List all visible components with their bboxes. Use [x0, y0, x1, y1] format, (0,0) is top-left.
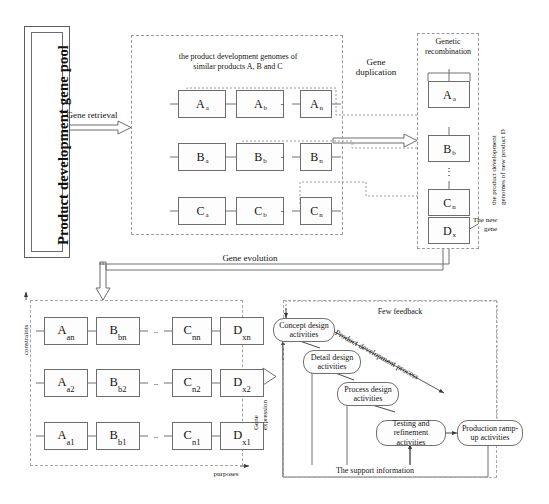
matrix-cell-d-x2: Dx2: [220, 369, 264, 397]
matrix-cell-b-b1-text: Bb1: [110, 429, 127, 444]
genome-cell-c-n-text: Cn: [310, 205, 322, 217]
gene-duplication-arrow: [333, 134, 417, 147]
gene-duplication-label-line2: duplication: [338, 67, 414, 78]
recombination-cell-a: Aa: [428, 81, 470, 108]
matrix-cell-b-b1: Bb1: [96, 422, 140, 450]
genome-cell-a-a: Aa: [178, 90, 226, 118]
gene-pool-inner-frame: Product development gene pool: [31, 32, 63, 252]
matrix-row-n-ellipsis: --: [146, 328, 166, 336]
new-gene-label-line1: The new: [473, 216, 525, 224]
genome-cell-c-a-text: Ca: [196, 205, 207, 217]
matrix-cell-d-xn-text: Dxn: [233, 324, 251, 339]
matrix-cell-d-xn: Dxn: [220, 317, 264, 345]
recombination-cell-b: Bb: [428, 135, 470, 162]
matrix-cell-c-n1-text: Cn1: [184, 429, 201, 444]
genome-cell-a-a-text: Aa: [196, 98, 208, 110]
activity-concept-design-line1: Concept design: [279, 321, 329, 330]
new-gene-label-line2: gene: [484, 225, 528, 233]
matrix-row-1-ellipsis: --: [146, 433, 166, 441]
similar-genomes-caption-line1: the product development genomes of: [140, 52, 336, 62]
recombination-side-caption-line1: the product development: [490, 135, 498, 205]
activity-concept-design-line2: activities: [290, 330, 319, 339]
recombination-cell-b-text: Bb: [443, 143, 455, 155]
activity-detail-design-line2: activities: [318, 362, 347, 371]
matrix-cell-c-n2-text: Cn2: [184, 376, 201, 391]
similar-genomes-caption-line2: similar products A, B and C: [140, 62, 336, 72]
matrix-cell-c-n1: Cn1: [172, 422, 212, 450]
matrix-cell-b-b2: Bb2: [96, 369, 140, 397]
genome-cell-b-a-text: Ba: [196, 151, 207, 163]
activity-concept-design[interactable]: Concept design activities: [273, 318, 335, 342]
recombination-cell-c-text: Cn: [443, 197, 455, 209]
genome-row-b-ellipsis: -: [270, 153, 294, 163]
genome-cell-c-n: Cn: [300, 197, 332, 225]
matrix-cell-b-bn: Bbn: [96, 317, 140, 345]
recombination-caption-line1: Genetic: [415, 37, 481, 47]
gene-pool-label: Product development gene pool: [55, 45, 72, 245]
matrix-cell-d-x2-text: Dx2: [233, 376, 251, 391]
gene-pool-title-block: Product development gene pool: [24, 26, 70, 258]
recombination-cell-a-text: Aa: [443, 89, 455, 101]
activity-production-rampup-line1: Production ramp-: [462, 424, 518, 433]
genome-cell-b-a: Ba: [178, 143, 226, 171]
activity-detail-design-line1: Detail design: [311, 353, 353, 362]
genome-cell-a-n: An: [300, 90, 332, 118]
matrix-cell-b-bn-text: Bbn: [110, 324, 127, 339]
diagram-canvas: Product development gene pool Gene retri…: [0, 0, 549, 504]
matrix-cell-a-a2-text: Aa2: [57, 376, 74, 391]
genome-row-c-ellipsis: -: [270, 207, 294, 217]
genome-cell-a-b-text: Ab: [254, 98, 266, 110]
matrix-cell-a-a1-text: Aa1: [57, 429, 74, 444]
matrix-row-2-ellipsis: --: [146, 380, 166, 388]
gene-expression-label-line2: expression: [261, 400, 269, 430]
activity-process-design[interactable]: Process design activities: [337, 382, 399, 406]
matrix-cell-c-nn: Cnn: [172, 317, 212, 345]
activity-testing-refinement-line1: Testing and: [393, 419, 430, 428]
support-information-label: The support information: [310, 466, 440, 476]
activity-testing-refinement-line2: refinement activities: [394, 428, 429, 446]
gene-evolution-arrow: [96, 262, 110, 300]
matrix-cell-d-x1-text: Dx1: [233, 429, 251, 444]
matrix-axis-x-label: purposes: [195, 470, 257, 478]
matrix-cell-c-nn-text: Cnn: [184, 324, 201, 339]
recombination-side-caption-line2: genomes of new product D: [499, 129, 507, 205]
genome-cell-b-n-text: Bn: [310, 151, 322, 163]
recombination-cell-c: Cn: [428, 189, 470, 216]
matrix-cell-a-an-text: Aan: [57, 324, 74, 339]
activity-process-design-line2: activities: [354, 394, 383, 403]
genome-cell-c-a: Ca: [178, 197, 226, 225]
matrix-cell-c-n2: Cn2: [172, 369, 212, 397]
gene-evolution-label: Gene evolution: [200, 253, 300, 264]
activity-testing-refinement[interactable]: Testing and refinement activities: [376, 420, 446, 446]
recombination-cell-d-text: Dx: [443, 225, 455, 237]
matrix-cell-a-a1: Aa1: [44, 422, 88, 450]
activity-production-rampup-line2: up activities: [471, 433, 510, 442]
genome-cell-b-n: Bn: [300, 143, 332, 171]
recombination-cell-d: Dx: [428, 217, 470, 244]
activity-production-rampup[interactable]: Production ramp- up activities: [457, 420, 523, 446]
genome-cell-b-b-text: Bb: [254, 151, 266, 163]
gene-retrieval-label: Gene retrieval: [56, 110, 128, 121]
activity-detail-design[interactable]: Detail design activities: [303, 350, 361, 374]
genome-cell-a-n-text: An: [310, 98, 322, 110]
matrix-cell-a-an: Aan: [44, 317, 88, 345]
few-feedback-label: Few feedback: [360, 307, 440, 317]
recombination-vertical-ellipsis: ⋮: [428, 166, 470, 178]
matrix-axis-y-label: constraints: [22, 325, 30, 355]
genome-cell-c-b-text: Cb: [254, 205, 266, 217]
activity-process-design-line1: Process design: [344, 385, 391, 394]
gene-expression-label-line1: Gene: [252, 415, 260, 430]
genome-row-a-ellipsis: -: [270, 100, 294, 110]
matrix-cell-a-a2: Aa2: [44, 369, 88, 397]
matrix-cell-b-b2-text: Bb2: [110, 376, 127, 391]
recombination-caption-line2: recombination: [411, 47, 485, 57]
